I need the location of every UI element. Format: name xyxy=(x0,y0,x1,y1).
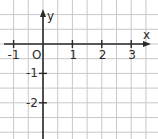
x-tick-label: 2 xyxy=(99,48,107,62)
x-axis-label: x xyxy=(143,28,150,42)
grid-lines xyxy=(0,0,158,139)
y-axis-label: y xyxy=(47,9,54,23)
y-tick-label: -2 xyxy=(26,96,38,110)
x-tick-label: 1 xyxy=(69,48,77,62)
y-tick-label: -1 xyxy=(26,66,38,80)
x-tick-label: -1 xyxy=(8,48,20,62)
x-tick-label: 3 xyxy=(128,48,136,62)
y-axis-arrow-icon xyxy=(40,9,46,17)
coordinate-grid-plot: -1123-1-2Oxy xyxy=(0,0,158,139)
axis-labels: -1123-1-2Oxy xyxy=(8,9,151,110)
coordinate-plane: -1123-1-2Oxy xyxy=(0,0,158,139)
origin-label: O xyxy=(32,48,41,62)
